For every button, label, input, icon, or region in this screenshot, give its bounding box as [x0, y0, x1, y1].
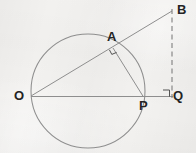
- segment-a-to-p: [113, 48, 144, 97]
- geometry-diagram-svg: [0, 0, 196, 153]
- label-point-b: B: [177, 3, 186, 16]
- right-angle-mark-at-q: [164, 90, 170, 96]
- label-point-q: Q: [173, 89, 183, 102]
- label-point-p: P: [139, 99, 148, 112]
- label-point-o: O: [14, 89, 24, 102]
- circle-shape: [31, 34, 145, 148]
- label-point-a: A: [107, 30, 116, 43]
- geometry-figure-canvas: O A B P Q: [0, 0, 196, 153]
- segment-o-to-b: [31, 11, 172, 96]
